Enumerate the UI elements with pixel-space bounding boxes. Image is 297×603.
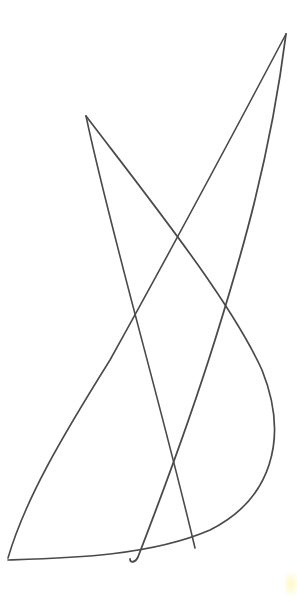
stroke-right-apex-long-curve	[8, 34, 286, 558]
stroke-right-apex-hook-line	[130, 34, 286, 562]
stroke-left-apex-straight-line	[86, 116, 195, 548]
paper-smudge	[285, 573, 297, 595]
pencil-sketch	[0, 0, 297, 603]
